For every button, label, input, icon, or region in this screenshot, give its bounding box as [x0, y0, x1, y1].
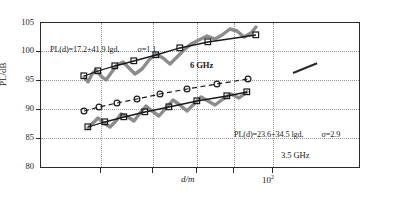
lower-fit-equation-text: PL(d)=23.6+34.5 lgd,	[234, 130, 304, 139]
y-tick-label-105: 105	[0, 18, 34, 27]
upper-fit-equation: PL(d)=17.2+41.9 lgd, σ=1.1	[50, 45, 156, 55]
chart-root: PL/dB 105 100 95 90 85 80 102 d/m PL(d)=…	[0, 0, 396, 205]
gridline-x-4	[234, 23, 235, 167]
frequency-label: 3.5 GHz	[281, 150, 309, 160]
x-tick-base: 10	[262, 175, 271, 185]
y-tick-label-90: 90	[0, 104, 34, 113]
y-tick-label-85: 85	[0, 133, 34, 142]
upper-fit-sigma: σ=1.1	[137, 45, 156, 54]
y-tick-label-100: 100	[0, 46, 34, 55]
x-tick-mark-4	[233, 168, 234, 173]
x-tick-mark-1	[100, 168, 101, 173]
x-tick-mark-2	[152, 168, 153, 173]
x-axis-label: d/m	[181, 174, 195, 184]
gridline-95	[41, 80, 359, 81]
x-tick-exponent: 2	[271, 174, 274, 180]
gridline-x-3	[197, 23, 198, 167]
gridline-x-5	[273, 23, 274, 167]
lower-fit-sigma: σ=2.9	[321, 130, 340, 139]
x-tick-label-100: 102	[262, 174, 274, 185]
upper-fit-equation-text: PL(d)=17.2+41.9 lgd,	[50, 45, 120, 54]
x-tick-mark-5	[272, 168, 273, 173]
gridline-90	[41, 109, 359, 110]
plot-area	[40, 22, 360, 168]
y-tick-label-80: 80	[0, 162, 34, 171]
y-tick-label-95: 95	[0, 75, 34, 84]
series-label-6ghz: 6 GHz	[190, 60, 213, 70]
lower-fit-equation: PL(d)=23.6+34.5 lgd, σ=2.9	[234, 130, 340, 140]
x-tick-mark-3	[196, 168, 197, 173]
